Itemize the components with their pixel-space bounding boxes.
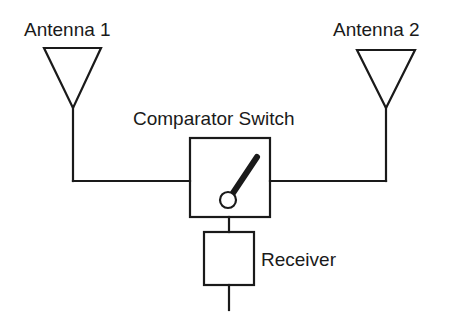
receiver-label: Receiver bbox=[261, 249, 337, 270]
switch-label: Comparator Switch bbox=[133, 108, 295, 129]
antenna-2: Antenna 2 bbox=[270, 19, 420, 181]
switch-pivot-icon bbox=[220, 192, 236, 208]
receiver-box bbox=[204, 232, 254, 285]
switch-lever-icon bbox=[233, 157, 257, 193]
receiver: Receiver bbox=[204, 217, 337, 310]
antenna-2-icon bbox=[357, 50, 415, 108]
antenna-1-icon bbox=[44, 48, 101, 108]
comparator-switch: Comparator Switch bbox=[133, 108, 295, 217]
antenna-1: Antenna 1 bbox=[24, 19, 190, 181]
antenna-1-label: Antenna 1 bbox=[24, 19, 111, 40]
antenna-2-label: Antenna 2 bbox=[333, 19, 420, 40]
diagram-canvas: Antenna 1 Antenna 2 Comparator Switch Re… bbox=[0, 0, 458, 322]
